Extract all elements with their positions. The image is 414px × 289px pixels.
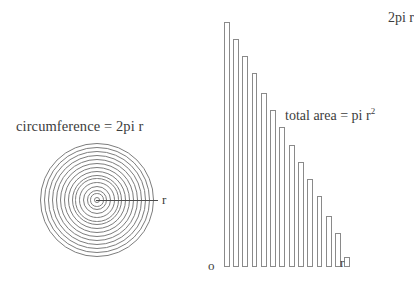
bar bbox=[252, 73, 258, 267]
radius-line bbox=[96, 200, 158, 201]
bar bbox=[233, 39, 239, 267]
bar bbox=[289, 145, 295, 268]
bar-chart-panel: 2pi r total area = pi r2 o r bbox=[200, 0, 414, 289]
bar bbox=[307, 179, 313, 267]
concentric-circles-panel: circumference = 2pi r r bbox=[0, 0, 200, 289]
bar bbox=[261, 93, 267, 267]
total-area-exponent: 2 bbox=[371, 106, 376, 116]
concentric-rings-group bbox=[40, 143, 154, 259]
bar bbox=[270, 110, 276, 267]
x-axis-max-label: r bbox=[340, 255, 344, 271]
bar bbox=[298, 162, 304, 267]
bar bbox=[224, 22, 230, 267]
bar bbox=[279, 127, 285, 267]
area-of-circle-figure: circumference = 2pi r r 2pi r total area… bbox=[0, 0, 414, 289]
bar bbox=[242, 56, 248, 267]
bar bbox=[317, 196, 323, 267]
origin-label: o bbox=[208, 258, 215, 274]
bar bbox=[326, 216, 332, 267]
bar bbox=[344, 257, 350, 267]
bar-series bbox=[222, 22, 352, 267]
circumference-label: circumference = 2pi r bbox=[16, 118, 143, 135]
y-axis-max-label: 2pi r bbox=[388, 10, 414, 26]
radius-label-circle: r bbox=[162, 192, 166, 208]
